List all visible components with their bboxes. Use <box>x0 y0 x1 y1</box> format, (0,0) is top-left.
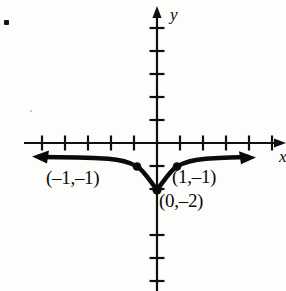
y-axis-arrowhead-icon <box>152 6 161 18</box>
y-axis-label: y <box>170 6 178 23</box>
left-point-label: (–1,–1) <box>46 168 99 187</box>
vertex-point-label: (0,–2) <box>159 191 203 210</box>
curve-left-arrowhead-icon <box>32 150 49 163</box>
x-axis-label: x <box>279 148 286 165</box>
coordinate-plane-svg <box>0 0 286 291</box>
y-axis <box>150 6 165 291</box>
graph-figure: (–1,–1) (1,–1) (0,–2) y x <box>0 0 286 291</box>
point-dot-left <box>133 162 142 171</box>
curve-right-arrowhead-icon <box>239 151 256 164</box>
scan-artifact-speck <box>4 20 9 25</box>
scan-artifact-speck-faint <box>30 110 32 112</box>
right-point-label: (1,–1) <box>172 167 216 186</box>
x-axis <box>24 136 286 151</box>
